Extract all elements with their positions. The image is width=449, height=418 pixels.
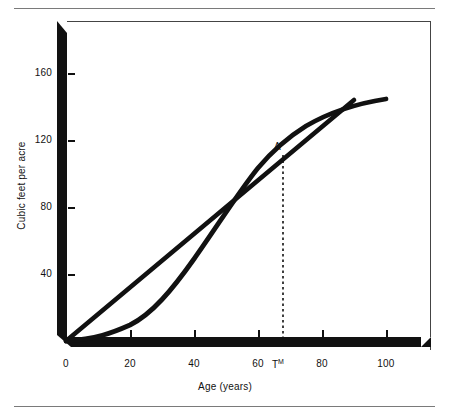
tm-superscript-text: M — [278, 358, 284, 365]
figure-canvas: 40 80 120 160 0 20 40 60 80 100 Cubic fe… — [0, 0, 449, 418]
tangent-line — [66, 100, 354, 341]
point-a-label: A — [274, 141, 281, 152]
x-tick-label-tm: TM — [272, 358, 284, 370]
yield-curve — [66, 99, 386, 341]
chart-curves — [0, 0, 449, 418]
